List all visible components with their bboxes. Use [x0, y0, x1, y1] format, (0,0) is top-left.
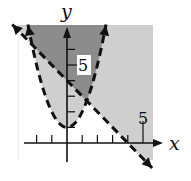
x-axis-arrow-icon — [153, 139, 163, 147]
inequality-graph: 5 5 y x — [0, 0, 191, 181]
shaded-regions — [18, 24, 167, 181]
x-tick-label: 5 — [138, 109, 148, 128]
y-tick-label: 5 — [78, 56, 88, 75]
x-axis-label: x — [169, 132, 180, 154]
y-axis-label: y — [60, 0, 72, 22]
